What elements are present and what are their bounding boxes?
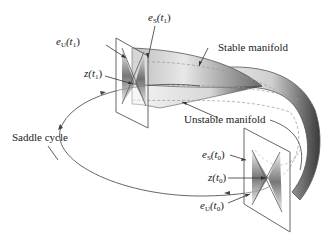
saddle-cycle-diagram: eU(t1) eS(t1) z(t1) Stable manifold Unst… <box>0 0 332 244</box>
label-es-t1: eS(t1) <box>148 12 171 25</box>
section-plane-t0 <box>244 128 290 232</box>
label-eu-t1: eU(t1) <box>56 36 80 49</box>
label-z-t1: z(t1) <box>84 68 102 81</box>
label-z-t0: z(t0) <box>208 172 226 185</box>
label-saddle-cycle: Saddle cycle <box>12 132 68 143</box>
label-eu-t0: eU(t0) <box>200 200 224 213</box>
label-unstable-manifold: Unstable manifold <box>184 114 266 125</box>
label-stable-manifold: Stable manifold <box>218 42 288 53</box>
label-es-t0: eS(t0) <box>202 149 225 162</box>
diagram-graphics <box>0 0 332 244</box>
